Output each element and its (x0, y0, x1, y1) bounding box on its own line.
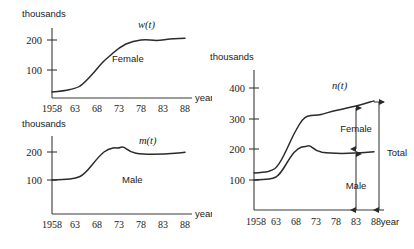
female-xtick-63: 63 (70, 103, 80, 114)
female-curve-wt (52, 38, 185, 92)
female-xtick-1958: 1958 (42, 103, 62, 114)
chart-male: thousands 200 100 m(t) Male 1958 63 68 7… (0, 114, 212, 249)
male-unit-label: thousands (22, 118, 66, 129)
chart-total: thousands 400 300 200 100 n(t) Female Ma… (204, 44, 414, 249)
male-curve-mt (52, 147, 185, 180)
female-xtick-73: 73 (114, 103, 124, 114)
male-xtick-78: 78 (136, 219, 146, 230)
male-xtick-88: 88 (180, 219, 190, 230)
chart-female: thousands 200 100 w(t) Female 1958 63 68… (0, 0, 212, 118)
female-ytick-label-200: 200 (26, 35, 42, 46)
total-xtick-73: 73 (311, 216, 321, 227)
total-xtick-78: 78 (331, 216, 341, 227)
male-xtick-1958: 1958 (42, 219, 62, 230)
male-xtick-63: 63 (70, 219, 80, 230)
male-ytick-label-200: 200 (26, 147, 42, 158)
female-series-label: Female (112, 53, 144, 64)
male-ytick-label-100: 100 (26, 175, 42, 186)
total-curve-label: n(t) (332, 80, 348, 92)
female-unit-label: thousands (22, 8, 66, 19)
female-xtick-68: 68 (92, 103, 102, 114)
male-xtick-83: 83 (158, 219, 168, 230)
bracket-female-label: Female (340, 123, 372, 134)
total-ytick-label-400: 400 (229, 83, 245, 94)
female-xtick-78: 78 (136, 103, 146, 114)
total-unit-label: thousands (210, 51, 254, 62)
female-curve-label: w(t) (138, 19, 155, 31)
total-xtick-1958: 1958 (246, 216, 266, 227)
total-ytick-label-200: 200 (229, 144, 245, 155)
male-series-label: Male (122, 174, 143, 185)
total-xtick-83: 83 (351, 216, 361, 227)
female-xtick-83: 83 (158, 103, 168, 114)
bracket-total-label: Total (387, 147, 407, 158)
female-xtick-88: 88 (180, 103, 190, 114)
total-xtick-88: 88 (371, 216, 381, 227)
male-curve-label: m(t) (139, 135, 157, 147)
male-xtick-68: 68 (92, 219, 102, 230)
total-ytick-label-100: 100 (229, 175, 245, 186)
total-xtick-63: 63 (271, 216, 281, 227)
figure-root: thousands 200 100 w(t) Female 1958 63 68… (0, 0, 414, 249)
total-xtick-68: 68 (291, 216, 301, 227)
total-xaxis-label: year (381, 216, 399, 227)
male-xtick-73: 73 (114, 219, 124, 230)
female-ytick-label-100: 100 (26, 65, 42, 76)
total-ytick-label-300: 300 (229, 114, 245, 125)
bracket-male-label: Male (346, 180, 367, 191)
